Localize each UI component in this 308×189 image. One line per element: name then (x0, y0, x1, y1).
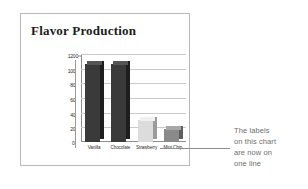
x-axis-label: Vanilla (88, 145, 101, 150)
bar-front-face (85, 64, 100, 142)
bar-front-face (111, 64, 126, 142)
y-tick-label: 1200 (68, 54, 78, 59)
annotation-line: on this chart (234, 136, 306, 147)
annotation-line: The labels (234, 125, 306, 136)
bar-front-face (164, 129, 179, 142)
y-axis-zero-label: 0 (72, 140, 75, 146)
x-axis-label: Strawberry (136, 145, 157, 150)
x-axis-label: Chocolate (110, 145, 130, 150)
bar-top-face (113, 61, 128, 65)
bar-side-face (100, 61, 104, 139)
bar-top-face (166, 126, 181, 130)
annotation-line: are now on (234, 147, 306, 158)
annotation-line: one line (234, 158, 306, 169)
bar-top-face (87, 61, 102, 65)
annotation-text: The labelson this chartare now onone lin… (234, 125, 306, 169)
page-title: Flavor Production (31, 23, 136, 39)
bar (138, 120, 153, 142)
bar (85, 64, 100, 142)
bar (164, 129, 179, 142)
callout-line (160, 148, 230, 149)
bar-side-face (126, 61, 130, 139)
bar (111, 64, 126, 142)
plot-area (81, 54, 186, 142)
bar-front-face (138, 120, 153, 142)
screenshot-root: Flavor Production 12001000800600400200 0… (0, 0, 308, 189)
x-axis-labels: VanillaChocolateStrawberryMint Chip (81, 145, 186, 155)
bar-series (81, 54, 186, 142)
bar-top-face (140, 117, 155, 121)
bar-chart: 12001000800600400200 0 VanillaChocolateS… (42, 52, 187, 156)
y-axis: 12001000800600400200 (42, 54, 78, 142)
chart-card: Flavor Production 12001000800600400200 0… (20, 13, 190, 166)
